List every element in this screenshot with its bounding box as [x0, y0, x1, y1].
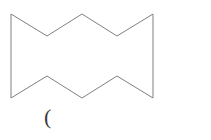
canvas-background [0, 0, 211, 140]
figure-canvas [0, 0, 211, 140]
